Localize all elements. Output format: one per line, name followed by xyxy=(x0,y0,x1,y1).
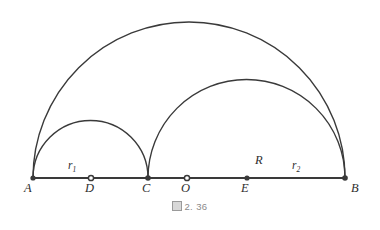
arc-small-semicircle-AC xyxy=(33,121,148,178)
point-label-D: D xyxy=(85,182,94,195)
point-label-E: E xyxy=(241,182,249,195)
point-marker-A xyxy=(30,175,35,180)
segment-label-R-base: R xyxy=(255,153,263,167)
segment-label-r1-subscript: 1 xyxy=(72,165,76,174)
figure-caption: 2. 36 xyxy=(0,200,380,212)
point-marker-C xyxy=(145,175,151,181)
segment-label-r2-subscript: 2 xyxy=(296,165,300,174)
point-marker-B xyxy=(342,175,348,181)
point-marker-D xyxy=(88,175,93,180)
segment-label-r1: r1 xyxy=(68,160,76,174)
geometry-diagram xyxy=(0,0,380,230)
point-label-O: O xyxy=(181,182,190,195)
point-label-C: C xyxy=(142,182,150,195)
arc-large-semicircle-AB xyxy=(33,22,345,178)
point-label-B: B xyxy=(351,182,359,195)
segment-label-r2: r2 xyxy=(292,160,300,174)
segment-label-R: R xyxy=(255,154,263,167)
point-marker-O xyxy=(184,175,189,180)
figure-caption-text: 2. 36 xyxy=(184,201,207,212)
cjk-tofu-box-icon xyxy=(172,201,182,211)
arc-medium-semicircle-CB xyxy=(148,80,345,178)
point-label-A: A xyxy=(24,182,32,195)
figure-2-36: A D C O E B r1 R r2 2. 36 xyxy=(0,0,380,230)
point-marker-E xyxy=(244,175,249,180)
